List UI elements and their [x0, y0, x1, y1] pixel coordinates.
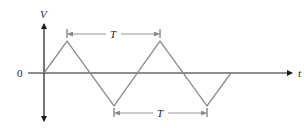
x-axis-label: t [298, 67, 302, 79]
origin-label: 0 [17, 67, 23, 79]
y-axis-label: V [40, 8, 48, 20]
period-label-upper: T [110, 28, 117, 40]
period-annotation-lower: T [114, 107, 207, 119]
period-annotation-upper: T [67, 28, 160, 40]
period-label-lower: T [157, 107, 164, 119]
triangle-wave-diagram: V t 0 T T [0, 0, 304, 128]
